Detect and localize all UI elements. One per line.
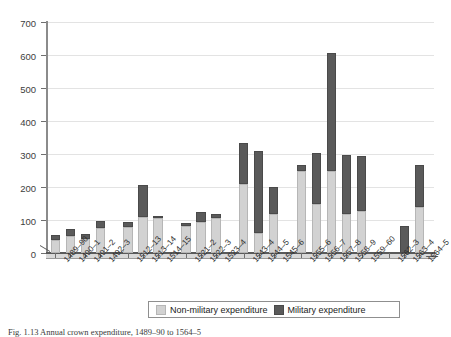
x-label-1513–14: 1513–14 — [150, 258, 157, 264]
bar-segment-military — [239, 143, 248, 183]
x-label-1545–6: 1545–6 — [281, 258, 288, 264]
bar-1556–7[interactable] — [312, 153, 321, 253]
bar-series-group — [46, 22, 434, 253]
bar-1489–90[interactable] — [51, 235, 60, 253]
bar-segment-military — [96, 221, 105, 228]
x-label-1543–4: 1543–4 — [251, 258, 258, 264]
x-label-1557–8: 1557–8 — [338, 258, 345, 264]
y-tick-500: 500 — [2, 84, 36, 95]
x-label-1563–4: 1563–4 — [411, 258, 418, 264]
x-label-1562–3: 1562–3 — [396, 258, 403, 264]
x-label-1490–1: 1490–1 — [77, 258, 84, 264]
light-grey-swatch-icon — [156, 305, 166, 315]
x-label-1556–7: 1556–7 — [323, 258, 330, 264]
bar-1558–9[interactable] — [342, 155, 351, 253]
bar-segment-non-military — [51, 240, 60, 253]
bar-1544–5[interactable] — [254, 151, 263, 253]
bar-segment-military — [327, 53, 336, 170]
figure-caption: Fig. 1.13 Annual crown expenditure, 1489… — [8, 327, 201, 337]
chart-legend: Non-military expenditure Military expend… — [148, 301, 400, 318]
x-label-1555–6: 1555–6 — [308, 258, 315, 264]
x-label-1491–2: 1491–2 — [92, 258, 99, 264]
x-label-1564–5: 1564–5 — [426, 258, 433, 264]
bar-segment-military — [312, 153, 321, 204]
bar-segment-military — [342, 155, 351, 214]
legend-item-military[interactable]: Military expenditure — [274, 305, 366, 315]
x-label-1559–60: 1559–60 — [369, 258, 376, 264]
y-tick-700: 700 — [2, 18, 36, 29]
bar-1557–8[interactable] — [327, 53, 336, 253]
bar-segment-military — [415, 165, 424, 207]
legend-label-non-military: Non-military expenditure — [170, 305, 268, 315]
y-tick-300: 300 — [2, 150, 36, 161]
legend-item-non-military[interactable]: Non-military expenditure — [156, 305, 268, 315]
bar-segment-military — [357, 156, 366, 210]
x-label-1492–3: 1492–3 — [107, 258, 114, 264]
bar-segment-military — [138, 185, 147, 217]
bar-1559–60[interactable] — [357, 156, 366, 253]
y-tick-400: 400 — [2, 117, 36, 128]
bar-1513–14[interactable] — [138, 185, 147, 253]
bar-segment-military — [269, 187, 278, 214]
y-tick-200: 200 — [2, 183, 36, 194]
x-label-1512–13: 1512–13 — [135, 258, 142, 264]
y-tick-100: 100 — [2, 216, 36, 227]
x-label-1523–4: 1523–4 — [223, 258, 230, 264]
x-label-1558–9: 1558–9 — [353, 258, 360, 264]
x-label-1544–5: 1544–5 — [266, 258, 273, 264]
x-label-1514–15: 1514–15 — [165, 258, 172, 264]
x-axis-labels: 1489–901490–11491–21492–31512–131513–141… — [0, 256, 447, 302]
bar-segment-military — [254, 151, 263, 233]
x-label-1521–2: 1521–2 — [193, 258, 200, 264]
x-label-1522–3: 1522–3 — [208, 258, 215, 264]
y-tick-600: 600 — [2, 51, 36, 62]
legend-label-military: Military expenditure — [288, 305, 366, 315]
x-label-1489–90: 1489–90 — [62, 258, 69, 264]
bar-segment-military — [66, 229, 75, 236]
bar-segment-military — [196, 212, 205, 221]
dark-grey-swatch-icon — [274, 305, 284, 315]
